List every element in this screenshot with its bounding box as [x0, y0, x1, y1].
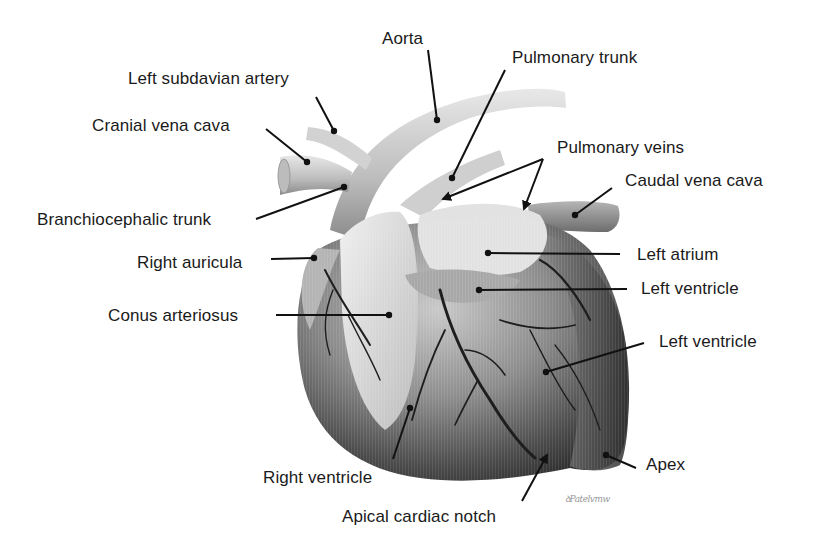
label-apical-cardiac-notch: Apical cardiac notch: [342, 508, 496, 525]
label-aorta: Aorta: [382, 30, 423, 47]
leader-line: [271, 258, 314, 259]
artist-signature: ꝺPatelvmw: [565, 492, 610, 505]
label-left-ventricle-lower: Left ventricle: [659, 333, 757, 350]
leader-dot: [603, 452, 609, 458]
leader-dot: [386, 312, 392, 318]
leader-dot: [434, 117, 440, 123]
label-left-atrium: Left atrium: [637, 246, 718, 263]
leader-dot: [311, 255, 317, 261]
leader-dot: [476, 287, 482, 293]
engraving-texture: [297, 217, 629, 481]
label-pulmonary-veins: Pulmonary veins: [557, 139, 684, 156]
label-apex: Apex: [646, 456, 685, 473]
label-right-auricula: Right auricula: [137, 254, 242, 271]
leader-dot: [304, 159, 310, 165]
label-branchiocephalic-trunk: Branchiocephalic trunk: [37, 211, 211, 228]
leader-dot: [543, 369, 549, 375]
leader-dot: [485, 250, 491, 256]
leader-line: [428, 50, 437, 120]
leader-dot: [341, 184, 347, 190]
label-pulmonary-trunk: Pulmonary trunk: [512, 49, 637, 66]
heart-anatomy-figure: Aorta Pulmonary trunk Left subdavian art…: [0, 0, 824, 551]
heart-illustration: [0, 0, 824, 551]
label-left-subclavian-artery: Left subdavian artery: [128, 70, 289, 87]
leader-line: [316, 97, 334, 131]
label-cranial-vena-cava: Cranial vena cava: [92, 117, 230, 134]
leader-dot: [331, 128, 337, 134]
leader-line: [256, 187, 344, 219]
vena-cava-opening: [278, 159, 290, 193]
leader-line: [488, 253, 620, 254]
label-caudal-vena-cava: Caudal vena cava: [625, 172, 763, 189]
leader-dot: [449, 175, 455, 181]
label-left-ventricle-upper: Left ventricle: [641, 280, 739, 297]
heart-body: [297, 204, 629, 481]
label-conus-arteriosus: Conus arteriosus: [108, 307, 238, 324]
label-right-ventricle: Right ventricle: [263, 469, 372, 486]
leader-dot: [572, 212, 578, 218]
leader-dot: [407, 405, 413, 411]
leader-line: [479, 289, 627, 290]
